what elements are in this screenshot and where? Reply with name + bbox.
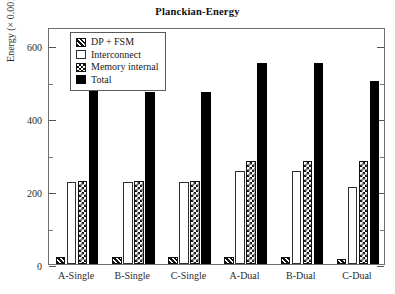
legend-label: Memory internal (91, 62, 158, 72)
bar-a-single-mem (78, 181, 88, 264)
bar-a-single-inter (67, 182, 77, 264)
legend-swatch-icon (76, 50, 86, 59)
legend-label: DP + FSM (91, 37, 134, 47)
chart-container: Planckian-Energy Energy (× 0.001 uJ) 020… (0, 0, 395, 294)
x-tick-label: A-Dual (230, 270, 260, 281)
legend-item: DP + FSM (76, 36, 158, 49)
y-tick-label: 600 (27, 42, 42, 53)
y-tick-label: 0 (37, 261, 42, 272)
bar-b-dual-dpfsm (281, 257, 291, 264)
bar-b-single-dpfsm (112, 257, 122, 264)
bar-b-dual-total (314, 63, 324, 264)
legend-item: Interconnect (76, 49, 158, 62)
x-tick-label: C-Dual (342, 270, 371, 281)
bar-c-dual-dpfsm (337, 259, 347, 264)
bar-b-dual-mem (303, 161, 313, 264)
y-tick-major (49, 266, 56, 267)
legend-item: Memory internal (76, 61, 158, 74)
bar-b-dual-inter (292, 171, 302, 264)
bar-c-single-dpfsm (168, 257, 178, 264)
bar-a-dual-inter (235, 171, 245, 264)
bar-c-single-total (201, 92, 211, 264)
bar-c-single-inter (179, 182, 189, 264)
bar-a-dual-dpfsm (224, 257, 234, 264)
x-tick-label: B-Dual (286, 270, 315, 281)
x-tick-label: B-Single (114, 270, 150, 281)
legend-swatch-icon (76, 75, 86, 84)
y-tick-major (377, 266, 384, 267)
x-tick-label: C-Single (171, 270, 207, 281)
bar-a-single-dpfsm (56, 257, 66, 264)
legend-swatch-icon (76, 38, 86, 47)
bar-a-dual-mem (246, 161, 256, 264)
y-tick-label: 400 (27, 115, 42, 126)
chart-legend: DP + FSMInterconnectMemory internalTotal (70, 32, 166, 91)
y-axis-label: Energy (× 0.001 uJ) (5, 0, 16, 97)
bar-a-single-total (89, 89, 99, 264)
legend-item: Total (76, 74, 158, 87)
bar-b-single-inter (123, 182, 133, 264)
bar-c-dual-inter (348, 187, 358, 264)
legend-label: Interconnect (91, 50, 141, 60)
x-tick-label: A-Single (58, 270, 94, 281)
chart-title: Planckian-Energy (0, 6, 395, 17)
legend-label: Total (91, 75, 111, 85)
bar-a-dual-total (257, 63, 267, 264)
bar-b-single-mem (134, 181, 144, 264)
legend-swatch-icon (76, 63, 86, 72)
bar-b-single-total (145, 92, 155, 264)
bar-c-single-mem (190, 181, 200, 264)
y-tick-label: 200 (27, 188, 42, 199)
bar-c-dual-total (370, 81, 380, 264)
bar-c-dual-mem (359, 161, 369, 264)
